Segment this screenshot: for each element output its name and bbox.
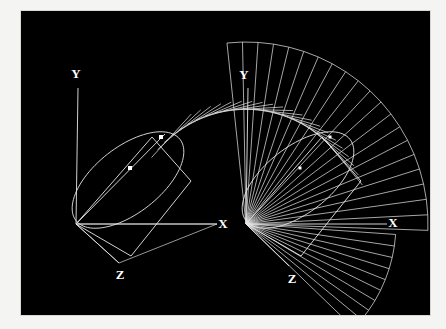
sweep-ray bbox=[246, 64, 332, 224]
sweep-ray bbox=[246, 215, 428, 224]
base-fan-chord bbox=[362, 310, 369, 315]
quadrilateral bbox=[76, 137, 191, 256]
sweep-quad-edge bbox=[171, 104, 220, 136]
sweep-ray bbox=[246, 140, 408, 224]
sweep-arc-chord bbox=[289, 47, 304, 51]
base-fan-chord bbox=[392, 246, 394, 257]
sweep-quad-edge bbox=[152, 114, 192, 157]
axis-label-y: Y bbox=[71, 66, 81, 81]
base-fan-chord bbox=[385, 269, 389, 280]
plot-plate: XYZXYZ bbox=[21, 11, 430, 315]
sweep-arc-chord bbox=[358, 81, 370, 91]
sweep-arc-chord bbox=[332, 64, 345, 72]
sweep-quad-edge bbox=[158, 110, 201, 150]
base-fan-ray bbox=[246, 224, 369, 310]
data-marker bbox=[128, 166, 132, 170]
sweep-quad-edge bbox=[164, 106, 210, 142]
sweep-arc-chord bbox=[419, 169, 423, 184]
sweep-arc-chord bbox=[227, 42, 243, 43]
sweep-arc-chord bbox=[274, 44, 289, 47]
plot-canvas: XYZXYZ bbox=[21, 11, 430, 315]
base-fan-ray bbox=[246, 224, 362, 315]
base-fan-chord bbox=[381, 280, 386, 291]
sweep-quad-edge bbox=[264, 110, 320, 126]
sweep-arc-chord bbox=[426, 199, 427, 214]
base-fan-chord bbox=[369, 301, 375, 311]
axis-label-x: X bbox=[388, 215, 398, 230]
base-fan-chord bbox=[389, 257, 392, 268]
marker-ray bbox=[76, 134, 165, 224]
sweep-arc-chord bbox=[414, 154, 419, 169]
sweep-arc-chord bbox=[304, 51, 319, 57]
sweep-arc-chord bbox=[381, 102, 391, 114]
sweep-arc-chord bbox=[370, 91, 381, 102]
sweep-quad-edge bbox=[188, 101, 242, 124]
sweep-quad-edge bbox=[244, 108, 302, 115]
base-fan-chord bbox=[375, 290, 381, 300]
sweep-arc-chord bbox=[391, 114, 400, 127]
axis-label-z: Z bbox=[288, 271, 297, 286]
sweep-arc-chord bbox=[346, 72, 359, 81]
axis-z bbox=[76, 224, 119, 263]
axis-label-z: Z bbox=[116, 267, 125, 282]
sweep-arc-chord bbox=[258, 42, 273, 44]
data-marker bbox=[329, 136, 332, 139]
data-marker bbox=[299, 167, 302, 170]
sweep-arc-chord bbox=[424, 184, 427, 199]
sweep-arc-chord bbox=[408, 140, 415, 154]
axis-y bbox=[76, 88, 78, 224]
sweep-arc-chord bbox=[318, 57, 332, 64]
axis-label-x: X bbox=[218, 216, 228, 231]
base-fan-chord bbox=[394, 234, 395, 246]
sweep-quad-edge bbox=[179, 102, 231, 130]
sweep-ray bbox=[246, 47, 289, 224]
base-fan-ray bbox=[246, 224, 389, 269]
data-marker bbox=[159, 135, 163, 139]
image-frame: XYZXYZ bbox=[0, 0, 446, 329]
ellipse-curve bbox=[72, 132, 184, 228]
axis-label-y: Y bbox=[239, 67, 249, 82]
sweep-arc-chord bbox=[400, 127, 408, 140]
